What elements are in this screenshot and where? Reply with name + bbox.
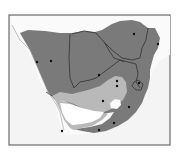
city-dot — [113, 122, 115, 124]
map-svg — [0, 0, 178, 155]
city-dot — [128, 106, 130, 108]
city-dot — [116, 85, 118, 87]
city-dot — [138, 82, 140, 84]
city-dot — [50, 60, 52, 62]
city-dot — [98, 74, 100, 76]
city-dot — [61, 130, 63, 132]
city-dot — [133, 33, 135, 35]
city-dot — [98, 129, 100, 131]
city-dot — [157, 43, 159, 45]
range-map — [0, 0, 178, 155]
city-dot — [102, 100, 104, 102]
city-dot — [36, 61, 38, 63]
city-dot — [116, 80, 118, 82]
